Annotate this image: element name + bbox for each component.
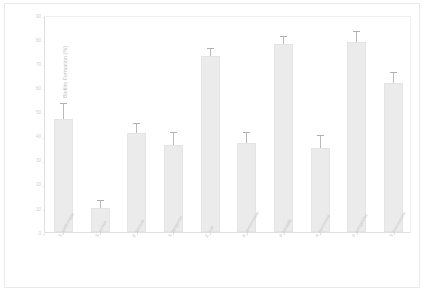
y-tick-label: 70 [28,63,41,68]
y-tick-label: 20 [28,183,41,188]
plot-area: Biofilm Formation (%) 908070605040302010… [44,16,411,233]
bar [201,56,220,232]
error-bar-cap [207,48,214,49]
y-tick-label: 30 [28,159,41,164]
y-tick-mark [43,186,46,187]
y-tick-label: 50 [28,111,41,116]
bar-group [347,15,366,232]
error-bar [246,133,247,143]
bar-group [384,15,403,232]
y-tick-label: 60 [28,87,41,92]
y-tick-mark [43,113,46,114]
y-tick-mark [43,65,46,66]
error-bar [100,201,101,208]
y-tick-label: 10 [28,208,41,213]
error-bar [63,104,64,118]
bar-group [237,15,256,232]
bar [274,44,293,232]
y-tick-mark [43,138,46,139]
bar [384,83,403,232]
y-tick-label: 40 [28,135,41,140]
y-tick-mark [43,17,46,18]
error-bar-cap [243,132,250,133]
bar-group [311,15,330,232]
error-bar [210,49,211,56]
error-bar-cap [280,36,287,37]
error-bar-cap [170,132,177,133]
bar-group [274,15,293,232]
error-bar-cap [317,135,324,136]
bar [127,133,146,232]
error-bar [283,37,284,44]
error-bar [173,133,174,145]
bar-group [164,15,183,232]
y-tick-label: 0 [28,232,41,237]
y-tick-mark [43,234,46,235]
figure: Biofilm Formation (%) 908070605040302010… [0,0,425,292]
y-tick-label: 80 [28,39,41,44]
error-bar [393,73,394,83]
bar-group [54,15,73,232]
bar-group [127,15,146,232]
error-bar-cap [60,103,67,104]
bar [347,42,366,232]
y-tick-mark [43,41,46,42]
error-bar-cap [390,72,397,73]
error-bar [320,136,321,148]
y-tick-mark [43,210,46,211]
error-bar [356,32,357,42]
bar-group [201,15,220,232]
y-tick-label: 90 [28,15,41,20]
error-bar-cap [97,200,104,201]
error-bar-cap [353,31,360,32]
error-bar-cap [133,123,140,124]
error-bar [136,124,137,134]
bar-group [91,15,110,232]
y-tick-mark [43,89,46,90]
y-tick-mark [43,162,46,163]
